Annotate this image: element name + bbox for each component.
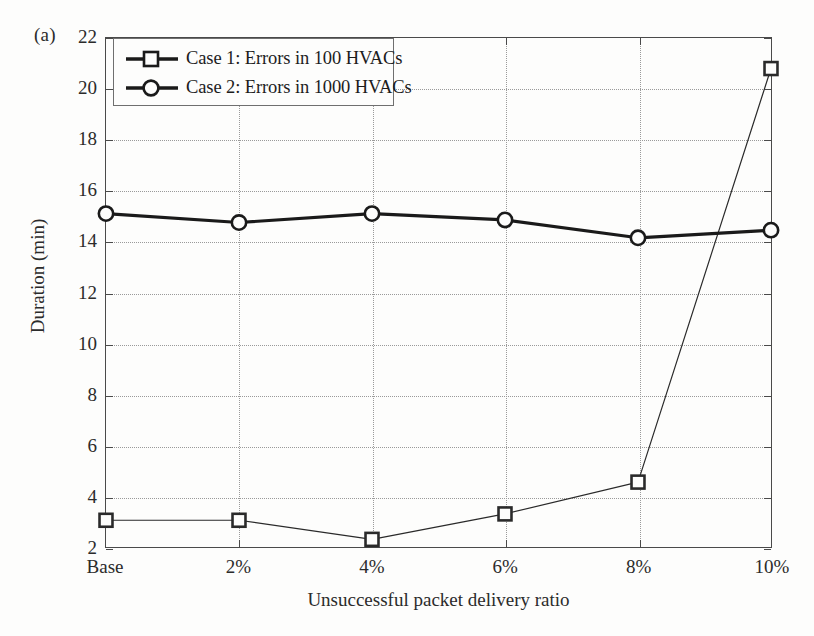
x-tick-label: 10% (755, 556, 790, 578)
circle-marker (498, 213, 512, 227)
series-line (106, 69, 771, 540)
y-tick-label: 22 (78, 26, 97, 48)
legend-label-case-1: Case 1: Errors in 100 HVACs (186, 48, 402, 69)
y-tick-mark-right (764, 549, 771, 550)
square-marker (765, 62, 778, 75)
y-tick-mark-left (106, 549, 113, 550)
circle-marker (99, 206, 113, 220)
figure-panel: (a) 246810121416182022 Base2%4%6%8%10% U… (0, 0, 814, 636)
y-tick-label: 18 (78, 128, 97, 150)
x-tick-label: Base (87, 556, 124, 578)
y-tick-label: 12 (78, 282, 97, 304)
legend-item-case-2: Case 2: Errors in 1000 HVACs (114, 73, 393, 102)
plot-area (105, 37, 772, 548)
circle-marker (232, 215, 246, 229)
series-layer (106, 38, 771, 547)
circle-marker (631, 231, 645, 245)
square-marker (233, 514, 246, 527)
x-tick-label: 8% (626, 556, 651, 578)
square-marker (366, 533, 379, 546)
circle-marker (764, 223, 778, 237)
square-marker-icon (124, 49, 180, 69)
square-marker (100, 514, 113, 527)
square-marker (499, 507, 512, 520)
series-2 (99, 206, 778, 245)
y-tick-label: 16 (78, 179, 97, 201)
y-axis-tick-labels: 246810121416182022 (55, 37, 97, 548)
y-tick-label: 14 (78, 230, 97, 252)
chart-legend: Case 1: Errors in 100 HVACs Case 2: Erro… (113, 38, 394, 106)
square-marker (632, 476, 645, 489)
panel-letter: (a) (34, 24, 56, 46)
x-tick-label: 4% (359, 556, 384, 578)
y-tick-label: 10 (78, 333, 97, 355)
y-tick-label: 8 (88, 384, 98, 406)
x-tick-label: 2% (226, 556, 251, 578)
y-tick-label: 20 (78, 77, 97, 99)
circle-marker-icon (124, 78, 180, 98)
y-tick-label: 4 (88, 486, 98, 508)
legend-label-case-2: Case 2: Errors in 1000 HVACs (186, 77, 412, 98)
x-axis-title: Unsuccessful packet delivery ratio (105, 589, 772, 611)
x-axis-tick-labels: Base2%4%6%8%10% (105, 556, 772, 582)
y-tick-label: 6 (88, 435, 98, 457)
series-line (106, 214, 771, 238)
series-1 (100, 62, 778, 546)
circle-marker (365, 206, 379, 220)
x-tick-label: 6% (493, 556, 518, 578)
y-axis-title: Duration (min) (27, 176, 49, 376)
legend-item-case-1: Case 1: Errors in 100 HVACs (114, 44, 393, 73)
